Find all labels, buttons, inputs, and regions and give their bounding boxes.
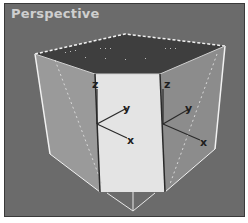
y-axis-label: y xyxy=(123,102,130,115)
x-axis-label: x xyxy=(127,134,134,147)
y-axis-label: y xyxy=(185,102,192,115)
scene: z y x z y x xyxy=(5,4,244,216)
box-front-face xyxy=(95,74,165,192)
perspective-viewport[interactable]: Perspective xyxy=(4,3,245,217)
pivot-wireframe xyxy=(107,192,155,211)
z-axis-label: z xyxy=(164,78,170,91)
x-axis-label: x xyxy=(200,136,207,149)
z-axis-label: z xyxy=(92,78,98,91)
